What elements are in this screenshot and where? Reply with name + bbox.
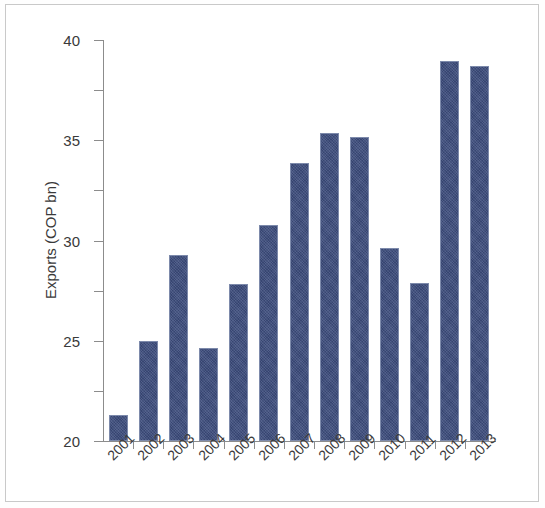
y-axis-tick-mark: 35	[94, 90, 103, 91]
y-axis-tick-label: 25	[63, 332, 80, 349]
y-axis-tick-label: 30	[63, 232, 80, 249]
y-axis-tick-mark: 40	[94, 40, 103, 41]
y-axis-tick-mark: 10	[94, 341, 103, 342]
bar	[320, 133, 339, 441]
y-axis-tick-mark: 5	[94, 391, 103, 392]
bar	[350, 137, 369, 441]
y-axis-tick-label: 40	[63, 32, 80, 49]
bar	[259, 225, 278, 441]
y-axis-tick-label: 20	[63, 433, 80, 450]
bar	[199, 348, 218, 441]
y-axis-tick-mark: 30	[94, 140, 103, 141]
bar	[139, 341, 158, 441]
y-axis-tick-label: 35	[63, 132, 80, 149]
y-axis-tick-mark: 15	[94, 291, 103, 292]
chart-figure: Exports (COP bn) 0510152025303540 200120…	[0, 0, 545, 508]
y-axis-tick-mark: 0	[94, 441, 103, 442]
bar	[290, 163, 309, 441]
y-axis-label: Exports (COP bn)	[42, 181, 59, 299]
bar	[410, 283, 429, 441]
y-axis-tick-mark: 25	[94, 190, 103, 191]
bar	[229, 284, 248, 441]
plot-area: 0510152025303540	[103, 40, 495, 441]
bar	[380, 248, 399, 441]
bar	[470, 66, 489, 441]
y-axis-tick-mark: 20	[94, 241, 103, 242]
bar	[440, 61, 459, 441]
bar	[169, 255, 188, 441]
